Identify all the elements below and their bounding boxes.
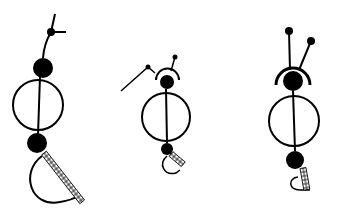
base-dot: [286, 151, 304, 169]
antenna-left: [289, 31, 290, 70]
ladder: [42, 151, 85, 204]
body-axis: [166, 89, 167, 143]
head-dot: [33, 58, 53, 78]
base-dot: [27, 133, 47, 153]
ladder: [300, 167, 310, 190]
body-axis: [38, 76, 40, 135]
figure-right: [269, 27, 319, 190]
diagram-canvas: [0, 0, 337, 212]
antenna-dot: [173, 55, 178, 60]
figure-middle: [121, 55, 190, 174]
head-dot: [160, 75, 174, 89]
head-dot: [283, 71, 303, 91]
antenna-right: [299, 41, 311, 70]
antenna-dot-left: [285, 27, 293, 35]
arm-line: [121, 67, 155, 91]
ladder: [169, 152, 185, 167]
arm-dot: [146, 65, 151, 70]
body-axis: [293, 91, 295, 151]
neck-curve: [43, 32, 51, 58]
antenna-dot-right: [307, 37, 315, 45]
figure-left: [13, 14, 85, 204]
